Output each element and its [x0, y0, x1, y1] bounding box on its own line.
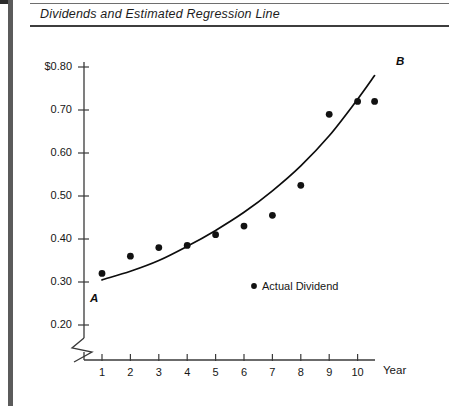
figure-frame: Dividends and Estimated Regression Line … — [0, 0, 449, 406]
regression-line — [102, 76, 375, 280]
data-point — [127, 253, 134, 260]
y-tick-label: $0.80 — [14, 60, 72, 72]
curve-start-label-a: A — [90, 292, 98, 304]
y-tick-label: 0.70 — [14, 103, 72, 115]
data-point — [326, 111, 333, 118]
data-point — [212, 231, 219, 238]
y-tick-label: 0.50 — [14, 189, 72, 201]
chart-plot-area: 0.200.300.400.500.600.70$0.80 1234567891… — [0, 0, 449, 406]
data-point — [371, 98, 378, 105]
x-axis-title: Year — [383, 364, 406, 376]
data-point — [184, 242, 191, 249]
data-point — [241, 223, 248, 230]
data-point — [354, 98, 361, 105]
legend-marker-icon — [251, 283, 257, 289]
data-point — [155, 244, 162, 251]
axis-break-icon — [72, 338, 92, 362]
x-tick-label: 10 — [338, 366, 378, 378]
data-point — [297, 182, 304, 189]
y-tick-label: 0.20 — [14, 318, 72, 330]
data-point-group — [99, 98, 378, 277]
y-tick-label: 0.60 — [14, 146, 72, 158]
legend-label: Actual Dividend — [262, 280, 338, 292]
y-tick-label: 0.40 — [14, 232, 72, 244]
curve-end-label-b: B — [396, 55, 404, 67]
y-tick-label: 0.30 — [14, 275, 72, 287]
data-point — [99, 270, 106, 277]
data-point — [269, 212, 276, 219]
